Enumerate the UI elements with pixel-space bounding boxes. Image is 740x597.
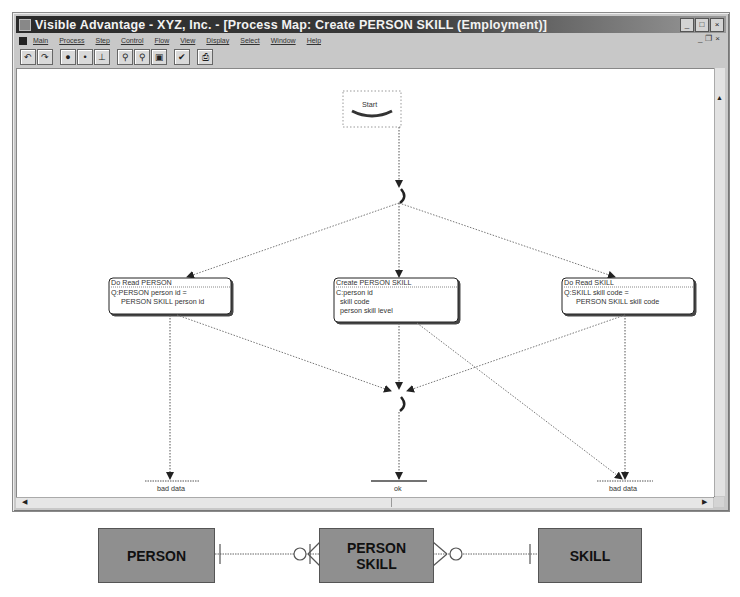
horizontal-scroll-thumb[interactable] (391, 498, 400, 507)
undo-button[interactable]: ↶ (20, 49, 36, 65)
start-label: Start (362, 100, 377, 109)
close-button[interactable]: × (710, 18, 724, 32)
entity-label: SKILL (356, 556, 396, 572)
fit-view-button[interactable]: ▣ (151, 49, 167, 65)
anchor-button[interactable]: ⊥ (94, 49, 110, 65)
large-dot-button[interactable]: ● (60, 49, 76, 65)
endpoint-label: bad data (157, 484, 185, 493)
print-icon: ⎙ (202, 52, 209, 63)
entity-label: PERSON (127, 548, 186, 564)
entity-skill: SKILL (538, 528, 642, 583)
step-read-person[interactable]: Do Read PERSON Q:PERSON person id = PERS… (109, 278, 231, 314)
step-line: Q:PERSON person id = (111, 288, 187, 297)
step-read-skill[interactable]: Do Read SKILL Q:SKILL skill code = PERSO… (562, 278, 694, 314)
print-button[interactable]: ⎙ (197, 49, 213, 65)
endpoint-label: ok (394, 484, 402, 493)
step-create-person-skill[interactable]: Create PERSON SKILL C:person id skill co… (334, 278, 458, 322)
menu-display[interactable]: Display (206, 37, 229, 44)
app-icon[interactable] (19, 19, 31, 31)
join-connector[interactable] (393, 397, 405, 411)
app-window: Visible Advantage - XYZ, Inc. - [Process… (12, 12, 730, 512)
zoom-in-button[interactable]: ⚲ (117, 49, 133, 65)
entity-person: PERSON (98, 528, 215, 583)
scroll-right-icon[interactable]: ▶ (702, 498, 707, 506)
menu-process[interactable]: Process (59, 37, 84, 44)
menu-bar: Main Process Step Control Flow View Disp… (16, 34, 726, 47)
zoom-in-icon: ⚲ (122, 52, 129, 62)
horizontal-scrollbar[interactable]: ◀ ▶ (16, 497, 713, 508)
step-title: Do Read SKILL (564, 278, 614, 287)
document-icon[interactable] (19, 37, 27, 45)
redo-button[interactable]: ↷ (37, 49, 53, 65)
large-dot-icon: ● (65, 52, 70, 62)
endpoint-bad-data-right[interactable]: bad data (597, 481, 653, 493)
scroll-left-icon[interactable]: ◀ (22, 498, 27, 506)
small-dot-button[interactable]: • (77, 49, 93, 65)
step-line: C:person id (336, 288, 373, 297)
process-map-canvas[interactable]: Start Do Read PERSON Q:PERSON person id … (16, 68, 715, 498)
mdi-close-button[interactable]: × (715, 34, 720, 43)
entity-label: PERSON (347, 540, 406, 556)
scroll-up-icon[interactable]: ▲ (716, 94, 723, 101)
endpoint-bad-data-left[interactable]: bad data (145, 481, 199, 493)
erd-diagram: PERSON PERSON SKILL SKILL (0, 520, 740, 597)
check-button[interactable]: ✔ (174, 49, 190, 65)
redo-icon: ↷ (41, 52, 49, 62)
branch-connector[interactable] (393, 189, 405, 203)
toolbar: ↶ ↷ ● • ⊥ ⚲ ⚲ ▣ ✔ ⎙ (16, 47, 726, 67)
size-grip[interactable] (714, 497, 724, 507)
menu-select[interactable]: Select (240, 37, 259, 44)
zoom-out-button[interactable]: ⚲ (134, 49, 150, 65)
small-dot-icon: • (83, 52, 86, 62)
step-title: Do Read PERSON (111, 278, 172, 287)
step-line: PERSON SKILL person id (121, 297, 204, 306)
menu-window[interactable]: Window (271, 37, 296, 44)
menu-help[interactable]: Help (307, 37, 321, 44)
step-line: person skill level (340, 306, 393, 315)
mdi-minimize-button[interactable]: _ (698, 34, 702, 43)
title-bar[interactable]: Visible Advantage - XYZ, Inc. - [Process… (16, 16, 726, 33)
minimize-button[interactable]: _ (680, 18, 694, 32)
anchor-icon: ⊥ (98, 52, 106, 62)
menu-main[interactable]: Main (33, 37, 48, 44)
vertical-scrollbar[interactable]: ▲ (714, 68, 725, 496)
endpoint-label: bad data (609, 484, 637, 493)
menu-step[interactable]: Step (95, 37, 109, 44)
step-line: Q:SKILL skill code = (564, 288, 629, 297)
start-node[interactable]: Start (343, 91, 401, 127)
entity-label: SKILL (570, 548, 610, 564)
check-icon: ✔ (178, 52, 186, 62)
menu-flow[interactable]: Flow (154, 37, 169, 44)
menu-control[interactable]: Control (121, 37, 144, 44)
endpoint-ok[interactable]: ok (371, 481, 427, 493)
fit-view-icon: ▣ (155, 52, 164, 62)
maximize-button[interactable]: □ (695, 18, 709, 32)
window-title: Visible Advantage - XYZ, Inc. - [Process… (35, 18, 547, 32)
entity-person-skill: PERSON SKILL (319, 528, 434, 583)
menu-view[interactable]: View (180, 37, 195, 44)
zoom-out-icon: ⚲ (139, 52, 146, 62)
step-title: Create PERSON SKILL (336, 278, 412, 287)
undo-icon: ↶ (24, 52, 32, 62)
step-line: skill code (340, 297, 370, 306)
mdi-restore-button[interactable]: ❐ (705, 34, 712, 43)
step-line: PERSON SKILL skill code (576, 297, 659, 306)
